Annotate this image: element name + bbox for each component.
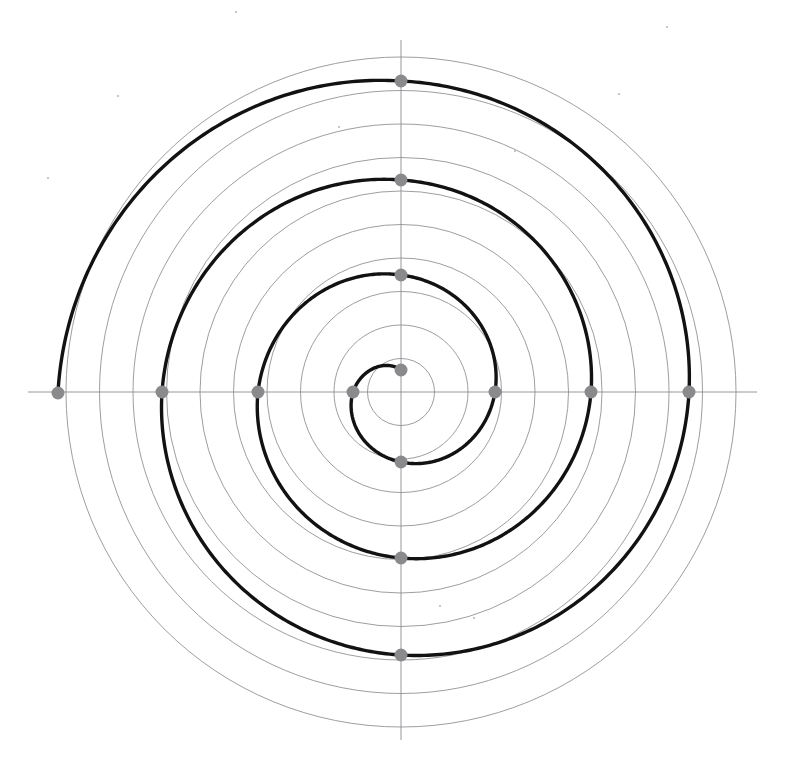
marker-dot-left-4 <box>52 387 65 400</box>
marker-dot-up-2 <box>395 269 408 282</box>
spiral-figure-root <box>0 0 786 777</box>
scan-speck-1 <box>235 11 237 13</box>
marker-dot-right-2 <box>585 386 598 399</box>
marker-dot-left-3 <box>156 386 169 399</box>
marker-dot-down-1 <box>395 456 408 469</box>
marker-dot-right-3 <box>683 386 696 399</box>
scan-speck-2 <box>666 26 668 28</box>
marker-dot-up-3 <box>395 174 408 187</box>
scan-speck-6 <box>618 93 620 95</box>
scan-speck-4 <box>338 126 340 128</box>
scan-speck-9 <box>117 95 119 97</box>
marker-dot-down-3 <box>395 649 408 662</box>
scan-speck-3 <box>47 177 49 179</box>
scan-speck-5 <box>514 150 516 152</box>
marker-dot-up-4 <box>395 75 408 88</box>
spiral-figure-svg <box>0 0 786 777</box>
scan-speck-8 <box>439 605 441 607</box>
marker-dot-left-1 <box>347 386 360 399</box>
marker-dot-left-2 <box>252 386 265 399</box>
marker-dot-up-1 <box>395 364 408 377</box>
marker-dot-down-2 <box>395 552 408 565</box>
figure-background <box>0 0 786 777</box>
scan-speck-7 <box>473 617 475 619</box>
marker-dot-right-1 <box>489 386 502 399</box>
